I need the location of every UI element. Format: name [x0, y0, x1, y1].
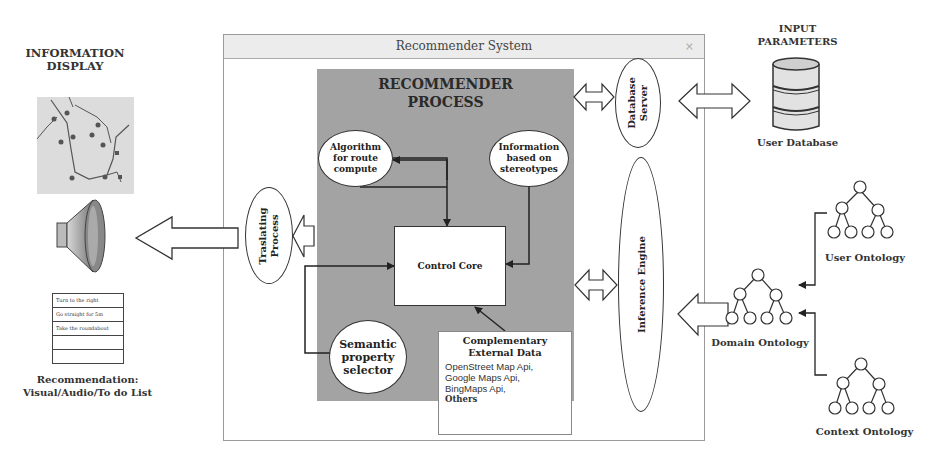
inference-engine-label: Inference Engine: [636, 236, 647, 333]
database-icon: [773, 58, 819, 130]
context-ontology-label: Context Ontology: [812, 425, 917, 438]
user-ontology-tree-icon: [828, 181, 893, 238]
semantic-line2: property: [339, 351, 397, 364]
database-server-node: Database Server: [615, 58, 661, 148]
algorithm-line3: compute: [330, 164, 381, 175]
algorithm-line1: Algorithm: [330, 142, 381, 153]
user-ontology-label: User Ontology: [820, 251, 910, 264]
external-item: OpenStreet Map Api,: [445, 361, 565, 372]
domain-ontology-tree-icon: [726, 269, 792, 324]
database-server-line2: Server: [638, 77, 650, 129]
semantic-line1: Semantic: [339, 338, 397, 351]
stereotypes-line3: stereotypes: [499, 164, 560, 175]
semantic-line3: selector: [339, 364, 397, 377]
stereotypes-node: Information based on stereotypes: [489, 130, 569, 187]
control-core-node: Control Core: [394, 226, 506, 306]
translating-process-node: Traslating Process: [245, 187, 293, 284]
external-data-box: Complementary External Data OpenStreet M…: [438, 331, 572, 435]
input-title-line1: INPUT: [750, 22, 845, 35]
user-database-label: User Database: [750, 136, 845, 149]
external-item-others: Others: [445, 394, 565, 405]
translating-line2: Process: [269, 207, 281, 264]
algorithm-line2: for route: [330, 153, 381, 164]
inference-engine-node: Inference Engine: [618, 157, 664, 412]
domain-ontology-label: Domain Ontology: [705, 336, 815, 349]
stereotypes-line1: Information: [499, 142, 560, 153]
external-item: BingMaps Api,: [445, 383, 565, 394]
input-parameters-title: INPUT PARAMETERS: [750, 22, 845, 48]
stereotypes-line2: based on: [499, 153, 560, 164]
control-core-label: Control Core: [418, 261, 483, 271]
input-title-line2: PARAMETERS: [750, 35, 845, 48]
external-item: Google Maps Api,: [445, 372, 565, 383]
semantic-selector-node: Semantic property selector: [329, 320, 407, 394]
external-title-line1: Complementary: [445, 335, 565, 347]
algorithm-node: Algorithm for route compute: [318, 130, 393, 187]
external-title-line2: External Data: [445, 347, 565, 359]
database-server-line1: Database: [626, 77, 638, 129]
translating-line1: Traslating: [257, 207, 269, 264]
context-ontology-tree-icon: [829, 358, 894, 414]
